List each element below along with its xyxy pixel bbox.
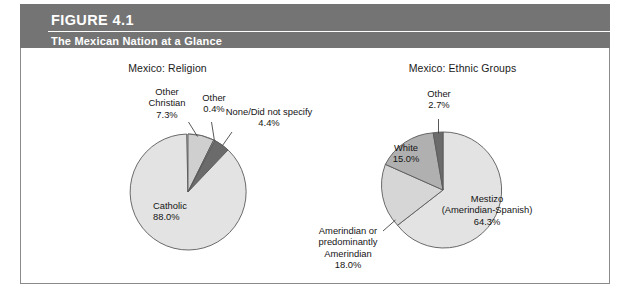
pie-label-white: White 15.0% — [378, 142, 434, 165]
leader-line-none — [223, 132, 233, 146]
pie-chart-ethnic: Mexico: Ethnic Groups Other 2.7% White 1… — [315, 48, 610, 284]
figure-header-band: FIGURE 4.1 The Mexican Nation at a Glanc… — [20, 4, 610, 48]
pie-label-other-ethnic: Other 2.7% — [405, 88, 473, 111]
pie-label-catholic: Catholic 88.0% — [153, 200, 233, 223]
pie-label-amerindian: Amerindian or predominantly Amerindian 1… — [305, 225, 391, 271]
pie-chart-religion: Mexico: Religion Other Christian 7. — [20, 48, 315, 284]
leader-line-other — [212, 122, 215, 140]
pie-svg-religion — [20, 48, 315, 284]
pie-label-none-did-not-specify: None/Did not specify 4.4% — [223, 106, 315, 129]
figure-number-label: FIGURE 4.1 — [51, 12, 134, 28]
pie-label-mestizo: Mestizo (Amerindian-Spanish) 64.3% — [431, 193, 543, 227]
figure-container: FIGURE 4.1 The Mexican Nation at a Glanc… — [0, 0, 630, 297]
header-divider-rule — [48, 31, 622, 33]
figure-caption: The Mexican Nation at a Glance — [51, 35, 222, 48]
